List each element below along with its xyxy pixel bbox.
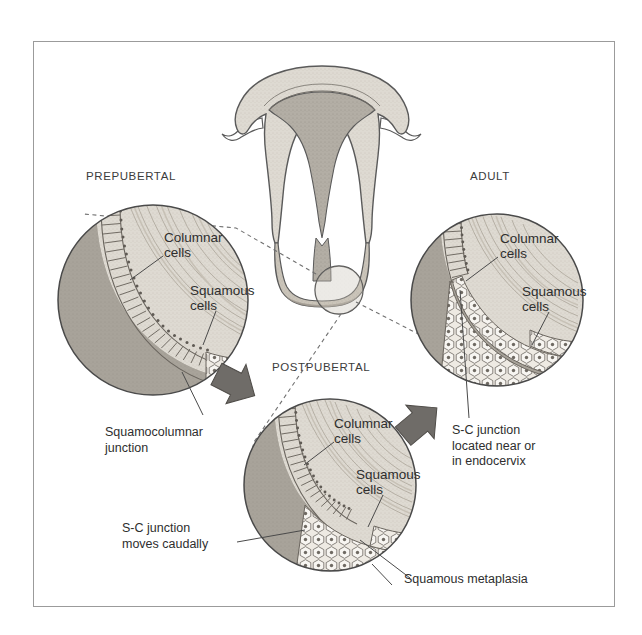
annotation-sc-junction-endocervix: S-C junction located near or in endocerv… — [452, 423, 535, 470]
adult-columnar-cells-label: Columnar cells — [500, 231, 559, 261]
figure-root: PREPUBERTAL POSTPUBERTAL ADULT Columnar … — [0, 0, 642, 635]
postpubertal-columnar-cells-label: Columnar cells — [334, 416, 393, 446]
illustration-canvas — [0, 0, 642, 635]
uterus-cross-section — [222, 66, 421, 314]
prepubertal-squamous-cells-label: Squamous cells — [190, 283, 255, 313]
annotation-squamous-metaplasia: Squamous metaplasia — [404, 572, 528, 588]
adult-squamous-cells-label: Squamous cells — [522, 284, 587, 314]
panel-title-postpubertal: POSTPUBERTAL — [272, 361, 370, 373]
panel-title-prepubertal: PREPUBERTAL — [86, 170, 176, 182]
postpubertal-squamous-cells-label: Squamous cells — [356, 467, 421, 497]
annotation-squamocolumnar-junction: Squamocolumnar junction — [105, 425, 203, 456]
panel-title-adult: ADULT — [470, 170, 510, 182]
prepubertal-columnar-cells-label: Columnar cells — [164, 230, 223, 260]
annotation-sc-junction-moves-caudally: S-C junction moves caudally — [122, 521, 208, 552]
